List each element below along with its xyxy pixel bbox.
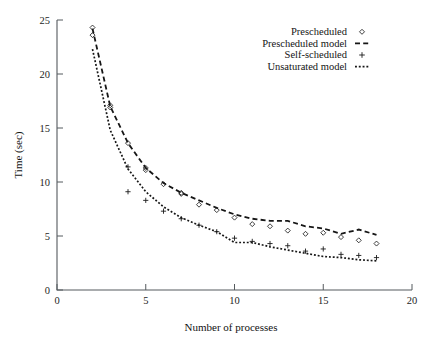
chart-canvas: 0510152025 05101520 Number of processes … — [0, 0, 434, 345]
legend-item-unsaturated-model: Unsaturated model — [267, 61, 370, 72]
y-tick-label-20: 20 — [40, 69, 51, 80]
data-point-diamond — [197, 202, 202, 207]
data-point-plus — [232, 236, 237, 241]
y-axis-ticks — [57, 20, 63, 290]
data-point-diamond — [303, 231, 308, 236]
y-tick-label-5: 5 — [45, 231, 50, 242]
data-point-plus — [161, 209, 166, 214]
x-axis-title: Number of processes — [185, 321, 278, 333]
x-tick-label-10: 10 — [229, 295, 240, 306]
y-axis-title: Time (sec) — [12, 131, 25, 178]
series-self-scheduled — [125, 164, 379, 260]
data-point-diamond — [285, 228, 290, 233]
x-tick-label-5: 5 — [143, 295, 148, 306]
data-point-plus — [267, 241, 272, 246]
legend-item-prescheduled: Prescheduled — [291, 26, 364, 37]
series-unsaturated-model — [93, 49, 377, 261]
y-tick-label-25: 25 — [40, 15, 51, 26]
x-tick-label-0: 0 — [54, 295, 59, 306]
legend-label: Prescheduled — [291, 26, 348, 37]
data-point-plus — [321, 246, 326, 251]
chart-legend: PrescheduledPrescheduled modelSelf-sched… — [262, 26, 370, 72]
data-point-diamond — [339, 235, 344, 240]
y-axis-tick-labels: 0510152025 — [40, 15, 51, 296]
y-tick-label-0: 0 — [45, 285, 50, 296]
data-point-plus — [125, 189, 130, 194]
series-line — [93, 49, 377, 261]
plot-axes — [57, 20, 412, 290]
data-point-plus — [143, 198, 148, 203]
legend-label: Unsaturated model — [267, 61, 347, 72]
data-point-plus — [285, 243, 290, 248]
x-axis-tick-labels: 05101520 — [54, 295, 417, 306]
legend-marker-diamond — [360, 29, 365, 34]
legend-marker-plus — [359, 52, 365, 58]
y-tick-label-15: 15 — [40, 123, 51, 134]
legend-item-self-scheduled: Self-scheduled — [285, 49, 365, 60]
data-point-diamond — [250, 222, 255, 227]
data-point-plus — [356, 253, 361, 258]
legend-label: Prescheduled model — [262, 38, 347, 49]
data-point-diamond — [321, 230, 326, 235]
y-tick-label-10: 10 — [40, 177, 51, 188]
data-point-diamond — [356, 238, 361, 243]
data-point-plus — [338, 252, 343, 257]
data-point-diamond — [374, 241, 379, 246]
data-point-diamond — [232, 215, 237, 220]
data-point-plus — [374, 255, 379, 260]
axis-frame — [57, 20, 412, 290]
legend-label: Self-scheduled — [285, 49, 348, 60]
x-axis-ticks — [57, 284, 412, 290]
legend-item-prescheduled-model: Prescheduled model — [262, 38, 370, 49]
x-tick-label-20: 20 — [407, 295, 418, 306]
chart-figure: 0510152025 05101520 Number of processes … — [0, 0, 434, 345]
x-tick-label-15: 15 — [318, 295, 329, 306]
data-point-diamond — [268, 224, 273, 229]
